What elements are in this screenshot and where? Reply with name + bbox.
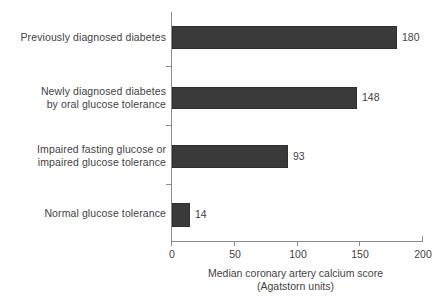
category-label-previously-diagnosed-diabetes: Previously diagnosed diabetes xyxy=(0,31,166,44)
bar-chart: Previously diagnosed diabetes Newly diag… xyxy=(0,0,441,308)
bar-value-impaired-fasting-glucose: 93 xyxy=(293,151,305,162)
x-axis-tick-50 xyxy=(234,241,235,246)
x-axis-tick-label-200: 200 xyxy=(414,248,432,260)
bar-previously-diagnosed-diabetes xyxy=(172,26,397,49)
x-axis-tick-top-200 xyxy=(422,236,423,241)
category-label-newly-diagnosed-diabetes: Newly diagnosed diabetes by oral glucose… xyxy=(0,85,166,110)
bar-value-normal-glucose-tolerance: 14 xyxy=(195,209,207,220)
x-axis-tick-100 xyxy=(297,241,298,246)
category-label-normal-glucose-tolerance: Normal glucose tolerance xyxy=(0,207,166,220)
x-axis-tick-label-100: 100 xyxy=(289,248,307,260)
x-axis-tick-label-150: 150 xyxy=(351,248,369,260)
bar-normal-glucose-tolerance xyxy=(172,203,190,227)
x-axis-tick-150 xyxy=(359,241,360,246)
category-label-group: Previously diagnosed diabetes Newly diag… xyxy=(0,0,166,238)
category-label-impaired-fasting-glucose: Impaired fasting glucose or impaired glu… xyxy=(0,143,166,168)
bar-value-newly-diagnosed-diabetes: 148 xyxy=(362,92,380,103)
bar-impaired-fasting-glucose xyxy=(172,145,288,168)
x-axis-title-line2: (Agatstorn units) xyxy=(150,280,441,293)
bar-value-previously-diagnosed-diabetes: 180 xyxy=(402,32,420,43)
x-axis-title: Median coronary artery calcium score (Ag… xyxy=(150,267,441,293)
bar-newly-diagnosed-diabetes xyxy=(172,87,357,109)
x-axis-tick-label-50: 50 xyxy=(229,248,241,260)
x-axis-tick-label-0: 0 xyxy=(169,248,175,260)
plot-area: 180 148 93 14 xyxy=(172,14,422,238)
x-axis-tick-0 xyxy=(171,241,172,246)
x-axis-title-line1: Median coronary artery calcium score xyxy=(208,267,383,279)
